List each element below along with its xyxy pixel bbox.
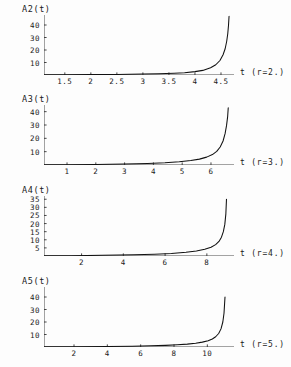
x-tick-label: 5 <box>180 167 185 176</box>
y-tick-label: 40 <box>20 107 40 116</box>
x-tick-label: 4.5 <box>213 77 228 86</box>
y-axis-label: A4(t) <box>22 185 51 195</box>
x-tick-label: 1 <box>65 167 70 176</box>
x-tick-label: 3 <box>140 77 145 86</box>
y-tick-label: 30 <box>20 305 40 314</box>
x-tick-label: 2 <box>79 258 84 267</box>
y-axis-label: A3(t) <box>22 94 51 104</box>
x-tick-label: 8 <box>171 349 176 358</box>
y-tick-label: 30 <box>20 121 40 130</box>
y-tick-label: 40 <box>20 293 40 302</box>
x-tick-label: 2 <box>71 349 76 358</box>
x-tick-label: 6 <box>163 258 168 267</box>
plot-panel: A2(t) 102030401.522.533.544.5t (r=2.) <box>0 2 291 93</box>
y-tick-label: 10 <box>20 330 40 339</box>
figure-sheet: A2(t) 102030401.522.533.544.5t (r=2.) A3… <box>0 0 291 367</box>
x-tick-label: 4 <box>121 258 126 267</box>
x-tick-label: 2 <box>88 77 93 86</box>
y-tick-label: 40 <box>20 21 40 30</box>
y-tick-label: 25 <box>20 211 40 220</box>
x-tick-label: 4 <box>105 349 110 358</box>
curve-line <box>44 108 228 165</box>
y-tick-label: 15 <box>20 227 40 236</box>
x-axis-label: t (r=3.) <box>240 158 285 167</box>
x-axis-label: t (r=2.) <box>240 68 285 77</box>
plot-area <box>44 196 234 256</box>
y-tick-label: 20 <box>20 46 40 55</box>
y-tick-label: 35 <box>20 195 40 204</box>
plot-panel: A4(t) 51015202530352468t (r=4.) <box>0 183 291 274</box>
y-axis-label: A5(t) <box>22 276 51 286</box>
y-tick-label: 5 <box>20 243 40 252</box>
y-tick-label: 10 <box>20 147 40 156</box>
x-tick-label: 1.5 <box>57 77 72 86</box>
x-tick-label: 4 <box>192 77 197 86</box>
y-tick-label: 10 <box>20 58 40 67</box>
y-tick-label: 10 <box>20 235 40 244</box>
x-tick-label: 6 <box>208 167 213 176</box>
x-tick-label: 10 <box>202 349 212 358</box>
curve-line <box>44 16 229 75</box>
x-tick-label: 6 <box>138 349 143 358</box>
plot-area <box>44 15 234 75</box>
y-tick-label: 30 <box>20 203 40 212</box>
x-axis-label: t (r=4.) <box>240 249 285 258</box>
x-axis-label: t (r=5.) <box>240 340 285 349</box>
curve-line <box>44 199 226 256</box>
x-tick-label: 4 <box>151 167 156 176</box>
curve-line <box>44 297 225 347</box>
y-axis-label: A2(t) <box>22 4 51 14</box>
y-tick-label: 30 <box>20 33 40 42</box>
x-tick-label: 3.5 <box>161 77 176 86</box>
x-tick-label: 2.5 <box>109 77 124 86</box>
plot-panel: A3(t) 10203040123456t (r=3.) <box>0 92 291 183</box>
x-tick-label: 2 <box>93 167 98 176</box>
x-tick-label: 3 <box>122 167 127 176</box>
plot-area <box>44 287 234 347</box>
plot-area <box>44 105 234 165</box>
y-tick-label: 20 <box>20 134 40 143</box>
y-tick-label: 20 <box>20 318 40 327</box>
x-tick-label: 8 <box>204 258 209 267</box>
plot-panel: A5(t) 10203040246810t (r=5.) <box>0 274 291 365</box>
y-tick-label: 20 <box>20 219 40 228</box>
